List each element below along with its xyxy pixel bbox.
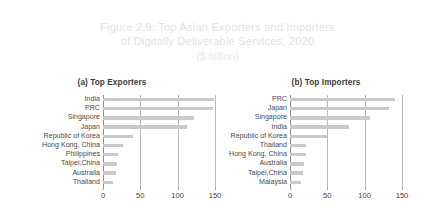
bar-row[interactable]: [290, 95, 402, 104]
bar[interactable]: [290, 153, 306, 156]
bar[interactable]: [290, 98, 395, 101]
x-tick-label: 150: [396, 191, 409, 200]
category-row: PRC: [4, 104, 100, 113]
bar-row[interactable]: [103, 178, 215, 187]
category-label: Hong Kong, China: [229, 151, 287, 158]
bar-row[interactable]: [290, 123, 402, 132]
bar-row[interactable]: [103, 150, 215, 159]
bar[interactable]: [103, 153, 118, 156]
bar-row[interactable]: [103, 123, 215, 132]
category-row: Republic of Korea: [4, 132, 100, 141]
category-label: Australia: [259, 160, 287, 167]
category-label: Republic of Korea: [44, 133, 100, 140]
category-label: Taipei,China: [248, 170, 287, 177]
bar[interactable]: [290, 125, 349, 128]
bar[interactable]: [103, 135, 133, 138]
figure-title-block: Figure 2.9: Top Asian Exporters and Impo…: [0, 20, 435, 63]
bar-row[interactable]: [290, 178, 402, 187]
category-row: Singapore: [4, 113, 100, 122]
bar[interactable]: [103, 116, 194, 119]
x-axis-importers: 050100150: [290, 187, 402, 205]
bar-row[interactable]: [103, 104, 215, 113]
bars-importers: [290, 95, 402, 187]
x-tick: [365, 187, 366, 190]
chart-panel-exporters: (a) Top Exporters IndiaPRCSingaporeJapan…: [4, 78, 220, 210]
category-label: India: [272, 124, 287, 131]
figure-container: Figure 2.9: Top Asian Exporters and Impo…: [0, 0, 435, 222]
category-row: Japan: [4, 123, 100, 132]
bar-row[interactable]: [290, 132, 402, 141]
category-row: Singapore: [218, 113, 287, 122]
category-label: Australia: [72, 170, 100, 177]
bar[interactable]: [290, 135, 327, 138]
category-row: PRC: [218, 95, 287, 104]
bar-row[interactable]: [103, 159, 215, 168]
bar[interactable]: [103, 125, 187, 128]
y-axis-labels-exporters: IndiaPRCSingaporeJapanRepublic of KoreaH…: [4, 95, 100, 187]
plot-area-exporters: [103, 95, 215, 187]
figure-title-line-2: of Digitally Deliverable Services, 2020: [0, 34, 435, 48]
bar[interactable]: [290, 144, 306, 147]
bar-row[interactable]: [103, 141, 215, 150]
category-row: Hong Kong, China: [218, 150, 287, 159]
bar[interactable]: [103, 181, 113, 184]
category-row: Taipei,China: [218, 169, 287, 178]
gridline: [402, 95, 403, 187]
bar[interactable]: [290, 171, 303, 174]
category-row: Hong Kong, China: [4, 141, 100, 150]
bar-row[interactable]: [290, 159, 402, 168]
bars-exporters: [103, 95, 215, 187]
bar[interactable]: [103, 144, 123, 147]
category-label: Philippines: [66, 151, 100, 158]
x-tick-label: 100: [358, 191, 371, 200]
x-tick-label: 50: [323, 191, 331, 200]
chart-panel-importers: (b) Top Importers PRCJapanSingaporeIndia…: [218, 78, 434, 210]
x-tick: [215, 187, 216, 190]
category-label: Singapore: [68, 114, 100, 121]
x-tick: [178, 187, 179, 190]
category-row: Philippines: [4, 150, 100, 159]
bar[interactable]: [290, 181, 301, 184]
bar-row[interactable]: [103, 132, 215, 141]
x-tick: [103, 187, 104, 190]
bar[interactable]: [103, 162, 117, 165]
bar-row[interactable]: [290, 113, 402, 122]
bar-row[interactable]: [103, 95, 215, 104]
x-tick: [290, 187, 291, 190]
x-tick-label: 0: [101, 191, 105, 200]
bar-row[interactable]: [103, 113, 215, 122]
y-axis-labels-importers: PRCJapanSingaporeIndiaRepublic of KoreaT…: [218, 95, 287, 187]
panel-title-importers: (b) Top Importers: [218, 78, 434, 87]
category-row: Taipei,China: [4, 159, 100, 168]
bar-row[interactable]: [290, 169, 402, 178]
x-tick: [140, 187, 141, 190]
bar[interactable]: [103, 107, 213, 110]
bar-row[interactable]: [103, 169, 215, 178]
category-label: Japan: [81, 124, 100, 131]
category-row: Japan: [218, 104, 287, 113]
category-row: Malaysia: [218, 178, 287, 187]
bar[interactable]: [290, 107, 389, 110]
category-row: India: [218, 123, 287, 132]
figure-title-line-1: Figure 2.9: Top Asian Exporters and Impo…: [0, 20, 435, 34]
category-label: PRC: [272, 96, 287, 103]
bar[interactable]: [103, 171, 116, 174]
category-row: India: [4, 95, 100, 104]
category-label: Japan: [268, 105, 287, 112]
bar-row[interactable]: [290, 150, 402, 159]
bar[interactable]: [290, 116, 370, 119]
panel-title-exporters: (a) Top Exporters: [4, 78, 220, 87]
bar[interactable]: [103, 98, 214, 101]
bar-row[interactable]: [290, 141, 402, 150]
category-label: Malaysia: [259, 179, 287, 186]
category-row: Thailand: [4, 178, 100, 187]
bar-row[interactable]: [290, 104, 402, 113]
category-row: Australia: [218, 159, 287, 168]
x-tick-label: 50: [136, 191, 144, 200]
x-tick-label: 0: [288, 191, 292, 200]
category-row: Republic of Korea: [218, 132, 287, 141]
category-label: Hong Kong, China: [42, 142, 100, 149]
bar[interactable]: [290, 162, 304, 165]
category-row: Australia: [4, 169, 100, 178]
category-label: Taipei,China: [61, 160, 100, 167]
